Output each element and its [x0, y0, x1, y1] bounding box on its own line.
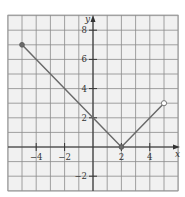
open-endpoint-marker: [161, 101, 166, 106]
y-tick-label: 2: [82, 113, 87, 123]
y-tick-label: 8: [82, 25, 87, 35]
x-axis-label: x: [175, 149, 180, 159]
x-tick-label: 4: [147, 152, 152, 162]
y-axis-label: y: [84, 14, 91, 24]
x-tick-label: 2: [119, 152, 124, 162]
closed-endpoint-marker: [20, 42, 25, 47]
x-tick-label: −4: [30, 152, 43, 162]
function-graph: x y −4−224−22468: [0, 0, 185, 197]
closed-endpoint-marker: [119, 145, 124, 150]
y-tick-label: −2: [74, 171, 87, 181]
x-tick-label: −2: [58, 152, 71, 162]
y-tick-label: 6: [82, 54, 87, 64]
y-tick-label: 4: [82, 84, 87, 94]
